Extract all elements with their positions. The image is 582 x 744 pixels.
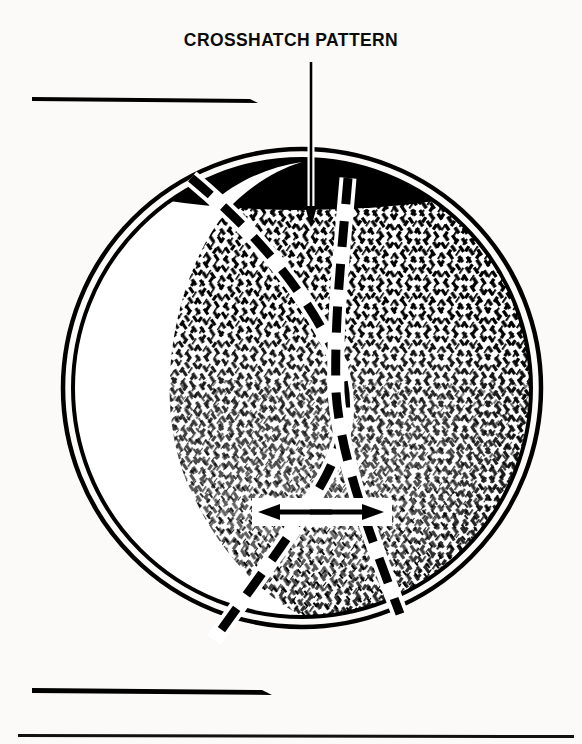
crosshatch-angle-arrows <box>252 498 392 526</box>
crosshatch-pattern-illustration <box>0 0 582 744</box>
figure-page: CROSSHATCH PATTERN <box>0 0 582 744</box>
